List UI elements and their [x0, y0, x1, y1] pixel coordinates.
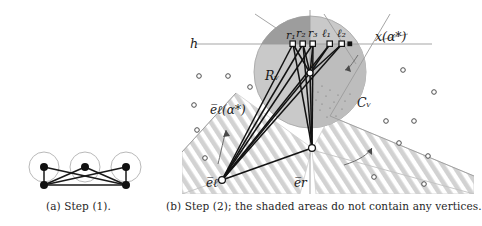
graph-edge: [44, 167, 85, 185]
graph-node: [40, 163, 48, 171]
graph-node: [81, 163, 89, 171]
port-node-r3: [310, 41, 315, 46]
scatter-vertex: [397, 141, 402, 146]
scatter-vertex: [432, 90, 437, 95]
label-e-l: e̅ℓ: [206, 176, 218, 190]
scatter-vertex: [422, 182, 427, 187]
label-rv: Rᵥ: [264, 68, 279, 83]
scatter-vertex: [226, 74, 231, 79]
graph-edge: [85, 167, 126, 185]
scatter-vertex: [401, 68, 406, 73]
label-x-alpha: x(α*): [375, 29, 407, 44]
graph-node: [40, 181, 48, 189]
scatter-vertex: [384, 119, 389, 124]
port-node-l1: [327, 41, 332, 46]
graph-node: [122, 163, 130, 171]
panel-a-graph: [29, 152, 141, 189]
port-node-l2: [339, 41, 344, 46]
label-port-r1: r₁: [286, 29, 296, 42]
label-h: h: [190, 36, 198, 51]
scatter-vertex: [372, 175, 377, 180]
node-lower-left: [219, 177, 226, 184]
label-e-l-alpha: e̅ℓ(α*): [210, 103, 246, 117]
label-cv: Cᵥ: [357, 95, 372, 110]
scatter-vertex: [203, 156, 208, 161]
panel-b-diagram: h x(α*) Rᵥ Cᵥ e̅ℓ(α*) e̅ℓ e̅r v r₁ r₂ r₃…: [182, 8, 474, 194]
scatter-vertex: [195, 128, 200, 133]
label-port-l1: ℓ₁: [322, 27, 331, 40]
caption-panel-a: (a) Step (1).: [46, 200, 111, 212]
label-v: v: [311, 62, 316, 72]
graph-node: [122, 181, 130, 189]
scatter-vertex: [412, 119, 417, 124]
scatter-vertex: [426, 154, 431, 159]
port-node-extra: [348, 42, 352, 46]
scatter-vertex: [192, 103, 197, 108]
label-port-l2: ℓ₂: [337, 27, 346, 40]
caption-panel-b: (b) Step (2); the shaded areas do not co…: [166, 200, 482, 212]
node-lower-right: [309, 145, 316, 152]
scatter-vertex: [248, 85, 253, 90]
scatter-vertex: [197, 74, 202, 79]
port-node-r2: [300, 41, 305, 46]
label-e-r: e̅r: [294, 176, 308, 190]
label-port-r2: r₂: [296, 27, 306, 40]
label-port-r3: r₃: [308, 27, 318, 40]
shaded-region-right: [312, 116, 474, 194]
